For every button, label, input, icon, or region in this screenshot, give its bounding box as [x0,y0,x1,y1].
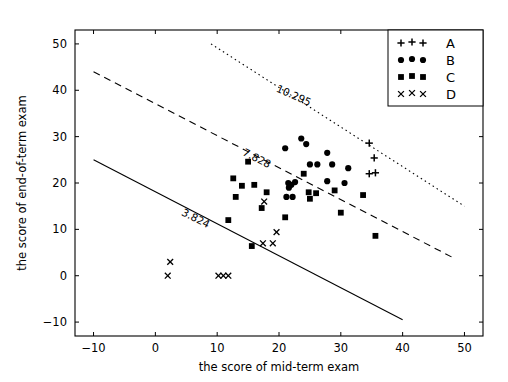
data-point-D [274,229,280,235]
legend-marker-B [409,56,415,62]
data-point-D [225,273,231,279]
y-tick-label: 10 [0,222,67,236]
chart-canvas: −1001020304050−1001020304050the score of… [0,0,508,382]
boundary-line-lower-boundary [94,160,403,320]
data-point-C [264,189,270,195]
data-point-C [373,233,379,239]
data-point-C [360,192,366,198]
x-tick-label: 40 [395,341,410,355]
x-axis-title: the score of mid-term exam [199,360,360,374]
data-point-D [270,240,276,246]
data-point-A [366,170,373,177]
data-point-B [341,180,347,186]
y-tick-label: 20 [0,176,67,190]
y-tick-label: 30 [0,130,67,144]
data-point-D [165,273,171,279]
legend-label-C: C [446,70,455,85]
scatter-plot [0,0,508,382]
data-point-C [332,188,338,194]
data-point-C [259,205,265,211]
data-point-B [292,179,298,185]
legend-marker-C [420,74,426,80]
data-point-C [239,183,245,189]
data-point-B [282,145,288,151]
legend-label-D: D [446,87,456,102]
data-point-C [307,196,313,202]
legend-entry-C[interactable] [398,73,426,80]
data-point-C [233,194,239,200]
data-point-C [301,171,307,177]
data-point-B [329,161,335,167]
legend-marker-B [398,57,404,63]
data-point-B [290,194,296,200]
y-tick-label: 0 [0,269,67,283]
legend-label-B: B [446,53,455,68]
legend-label-A: A [446,36,455,51]
x-tick-label: 30 [333,341,348,355]
data-point-D [261,199,267,205]
y-tick-label: 50 [0,37,67,51]
data-point-C [313,190,319,196]
x-tick-label: −10 [81,341,105,355]
series-C [225,159,378,249]
data-point-C [338,210,344,216]
data-point-A [372,169,379,176]
data-point-B [298,135,304,141]
legend-marker-C [409,73,415,79]
data-point-B [286,185,292,191]
y-tick-label: 40 [0,83,67,97]
data-point-B [283,194,289,200]
legend-marker-B [420,57,426,63]
y-tick-label: −10 [0,315,67,329]
data-point-B [324,178,330,184]
x-tick-label: 10 [210,341,225,355]
data-point-D [167,259,173,265]
data-point-C [251,182,257,188]
x-tick-label: 20 [272,341,287,355]
data-point-B [303,141,309,147]
series-A [366,140,379,178]
data-point-B [314,161,320,167]
data-point-B [307,161,313,167]
data-point-C [282,214,288,220]
data-point-C [230,175,236,181]
data-point-B [324,150,330,156]
data-point-C [249,243,255,249]
x-tick-label: 0 [152,341,159,355]
x-tick-label: 50 [457,341,472,355]
data-point-A [371,154,378,161]
data-point-D [260,240,266,246]
data-point-C [225,217,231,223]
y-axis-title: the score of end-of-term exam [15,95,29,270]
legend-marker-C [398,74,404,80]
data-point-C [306,189,312,195]
data-point-B [345,165,351,171]
data-point-A [366,140,373,147]
